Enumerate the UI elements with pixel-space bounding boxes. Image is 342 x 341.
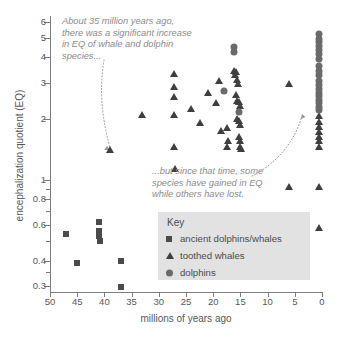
- legend-item-dolphins: dolphins: [180, 267, 216, 278]
- legend-triangle-marker-icon: [166, 252, 174, 259]
- data-point: [187, 105, 195, 112]
- data-point: [237, 145, 245, 152]
- data-point: [118, 258, 124, 264]
- data-point: [232, 68, 240, 75]
- data-point: [315, 143, 323, 150]
- data-point: [315, 224, 323, 231]
- legend-square-marker-icon: [166, 236, 172, 242]
- y-tick-label: 3: [41, 78, 46, 88]
- x-tick-label: 50: [39, 297, 61, 307]
- x-tick-label: 30: [148, 297, 170, 307]
- data-point: [285, 80, 293, 87]
- y-minor-tick: [46, 189, 50, 190]
- data-point: [170, 70, 178, 77]
- data-point: [316, 55, 323, 62]
- y-tick-label: 2: [41, 114, 46, 124]
- y-minor-tick: [46, 272, 50, 273]
- legend-item-ancient-dolphins-whales: ancient dolphins/whales: [180, 233, 282, 244]
- y-tick-label: 1: [41, 175, 46, 185]
- data-point: [63, 231, 69, 237]
- x-tick-label: 45: [66, 297, 88, 307]
- data-point: [236, 121, 244, 128]
- data-point: [285, 183, 293, 190]
- y-tick-label: 6: [41, 17, 46, 27]
- chart-figure: encephalization quotient (EQ) millions o…: [0, 0, 342, 341]
- data-point: [204, 89, 212, 96]
- y-tick-label: 5: [41, 33, 46, 43]
- legend-box: Key ancient dolphins/whales toothed whal…: [158, 212, 310, 280]
- data-point: [196, 119, 204, 126]
- y-axis-line: [50, 16, 51, 292]
- x-tick-label: 20: [202, 297, 224, 307]
- legend-title: Key: [167, 217, 184, 228]
- data-point: [96, 219, 102, 225]
- data-point: [74, 260, 80, 266]
- legend-item-label: ancient dolphins/whales: [180, 233, 282, 244]
- legend-circle-marker-icon: [166, 269, 173, 276]
- x-axis-title: millions of years ago: [50, 313, 322, 324]
- data-point: [170, 111, 178, 118]
- data-point: [235, 109, 242, 116]
- data-point: [315, 183, 323, 190]
- data-point: [224, 137, 232, 144]
- data-point: [106, 146, 114, 153]
- legend-item-toothed-whales: toothed whales: [180, 250, 245, 261]
- x-tick-label: 5: [284, 297, 306, 307]
- data-point: [138, 111, 146, 118]
- data-point: [223, 124, 231, 131]
- y-tick-label: 0.3: [33, 281, 46, 291]
- annotation-bottom: ...but since that time, some species hav…: [152, 166, 277, 201]
- y-tick-label: 0.8: [33, 194, 46, 204]
- x-tick-label: 0: [311, 297, 333, 307]
- x-tick-label: 35: [121, 297, 143, 307]
- data-point: [316, 107, 323, 114]
- data-point: [118, 284, 124, 290]
- annotation-top: About 35 million years ago, there was a …: [62, 16, 212, 62]
- data-point: [221, 88, 228, 95]
- legend-item-label: toothed whales: [180, 250, 245, 261]
- x-tick-label: 10: [257, 297, 279, 307]
- data-point: [234, 80, 242, 87]
- data-point: [215, 77, 223, 84]
- y-tick-label: 0.6: [33, 220, 46, 230]
- y-minor-tick: [46, 211, 50, 212]
- y-minor-tick: [46, 241, 50, 242]
- data-point: [170, 83, 178, 90]
- y-tick-label: 4: [41, 52, 46, 62]
- data-point: [230, 49, 237, 56]
- y-tick-label: 0.4: [33, 256, 46, 266]
- data-point: [97, 238, 103, 244]
- data-point: [170, 143, 178, 150]
- x-tick-label: 40: [93, 297, 115, 307]
- x-tick-label: 25: [175, 297, 197, 307]
- legend-item-label: dolphins: [180, 267, 216, 278]
- data-point: [170, 93, 178, 100]
- y-axis-title: encephalization quotient (EQ): [14, 66, 25, 246]
- data-point: [212, 99, 220, 106]
- x-tick-label: 15: [229, 297, 251, 307]
